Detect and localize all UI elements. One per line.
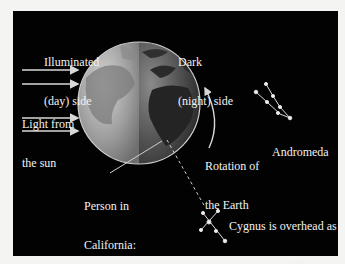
dark-side-label: Dark (night) side — [178, 30, 233, 121]
label-line: seen from California — [229, 259, 337, 264]
label-line: Cygnus is overhead as — [229, 220, 337, 233]
label-line: Illuminated — [44, 56, 99, 69]
label-line: Andromeda — [272, 146, 329, 159]
label-line: Light from — [22, 118, 74, 131]
label-line: the sun — [22, 157, 74, 170]
person-in-california-label: Person in California: 8:00 P.M. local ti… — [84, 174, 136, 264]
andromeda-constellation-icon — [254, 82, 292, 119]
label-line: (night) side — [178, 95, 233, 108]
label-line: California: — [84, 239, 136, 252]
label-line: Person in — [84, 200, 136, 213]
label-line: Rotation of — [205, 160, 259, 173]
light-from-sun-label: Light from the sun — [22, 92, 74, 183]
andromeda-label: Andromeda — [272, 120, 329, 172]
label-line: Dark — [178, 56, 233, 69]
cygnus-label: Cygnus is overhead as seen from Californ… — [229, 194, 337, 264]
